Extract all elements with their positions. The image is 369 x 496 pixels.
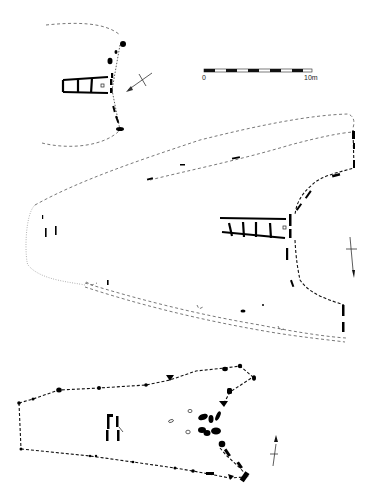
chamber-stones (106, 414, 123, 441)
plan-bottom (17, 364, 278, 482)
facade-stones-middle (42, 131, 355, 332)
facade-stones (108, 41, 127, 131)
forecourt-north (295, 130, 354, 215)
mound-inner-north (150, 132, 353, 180)
kerb-stones (17, 364, 256, 482)
mound-outline-lower (42, 130, 120, 146)
forecourt-orthostats (197, 411, 243, 469)
forecourt-south (295, 240, 344, 305)
scale-start-label: 0 (202, 74, 206, 81)
mound-outer-south (85, 283, 346, 338)
scale-end-label: 10m (304, 74, 318, 81)
north-arrow-bottom (270, 435, 278, 466)
kerb-west (19, 403, 21, 449)
north-arrow-middle (346, 237, 357, 278)
mound-inner-south (85, 287, 345, 342)
passage-cells (63, 77, 108, 93)
plan-middle (26, 114, 357, 342)
site-plans-figure: 0 10m (0, 0, 369, 496)
north-arrow-top (126, 73, 152, 92)
stone-holes (168, 409, 192, 433)
mound-outline-upper (46, 23, 120, 35)
plan-top (42, 23, 152, 146)
mound-west-end (26, 205, 85, 285)
kerb-north (19, 366, 253, 403)
forecourt-arm-south (220, 448, 248, 477)
passage-cells-middle (220, 218, 286, 238)
scale-bar: 0 10m (202, 69, 318, 81)
